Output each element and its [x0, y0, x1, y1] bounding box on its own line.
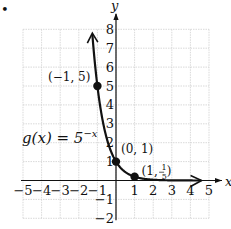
- x-axis-arrow-icon: [215, 178, 222, 183]
- x-tick-label: 2: [149, 183, 157, 198]
- y-axis-arrow-icon: [113, 13, 118, 20]
- x-tick-label: −4: [32, 183, 51, 198]
- x-tick-label: −5: [13, 183, 32, 198]
- point-marker: [93, 82, 101, 90]
- bullet-marker: •: [1, 2, 9, 17]
- y-tick-label: 7: [106, 41, 114, 56]
- y-tick-label: −1: [95, 192, 114, 207]
- y-tick-label: 8: [106, 22, 114, 37]
- y-tick-label: 4: [106, 97, 114, 112]
- point-label: (0, 1): [121, 142, 153, 156]
- x-axis-label: x: [225, 174, 231, 189]
- y-tick-label: 6: [106, 60, 114, 75]
- point-label: (−1, 5): [48, 70, 90, 84]
- point-marker: [112, 157, 120, 165]
- x-tick-label: 1: [130, 183, 138, 198]
- x-tick-label: 5: [205, 183, 213, 198]
- x-tick-label: 3: [168, 183, 176, 198]
- y-tick-label: −2: [95, 211, 114, 226]
- exponential-function-graph: • −5−4−3−2−11234587654321−1−2 (−1, 5)(0,…: [0, 0, 231, 229]
- y-tick-label: 3: [106, 116, 114, 131]
- function-label: g(x) = 5−x: [22, 128, 98, 147]
- x-tick-label: −3: [51, 183, 70, 198]
- y-tick-label: 5: [106, 79, 114, 94]
- point-marker: [130, 173, 138, 181]
- x-tick-label: −2: [69, 183, 88, 198]
- y-axis-label: y: [110, 0, 119, 13]
